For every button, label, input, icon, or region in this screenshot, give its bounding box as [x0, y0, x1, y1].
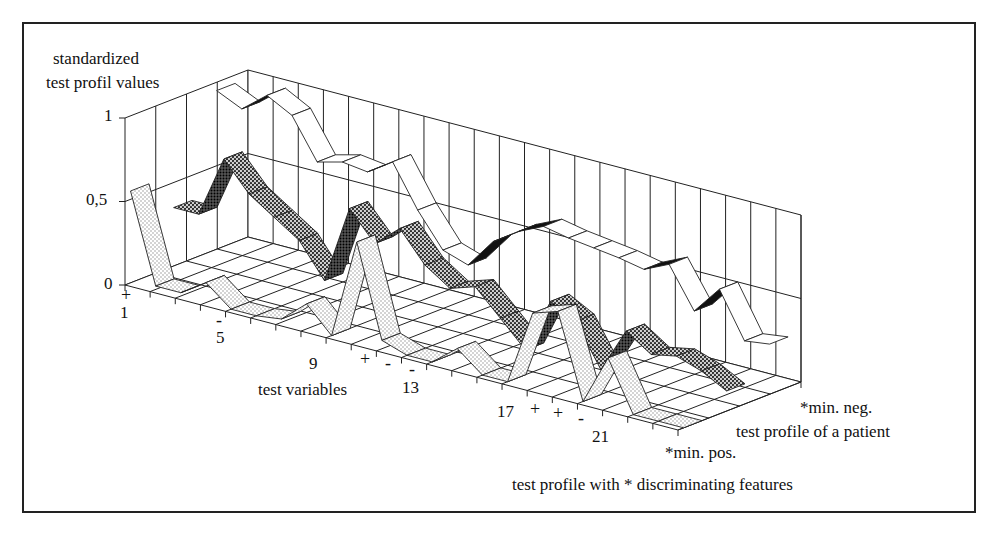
x-tick-1: 1 [120, 304, 129, 322]
y-tick-1: 1 [104, 107, 113, 125]
y-tick-0-5: 0,5 [86, 191, 107, 209]
marker-plus-10: + [360, 350, 370, 368]
x-tick-9: 9 [309, 355, 318, 373]
marker-plus-18: + [553, 404, 563, 422]
marker-minus-12: - [409, 360, 415, 378]
marker-minus-5: - [216, 311, 222, 329]
marker-plus-17: + [530, 400, 540, 418]
x-tick-21: 21 [592, 428, 609, 446]
series-label-min-neg: *min. neg. [800, 398, 872, 418]
y-tick-0: 0 [104, 275, 113, 293]
z-axis-title-line1: standardized [53, 49, 139, 69]
x-tick-17: 17 [497, 403, 514, 421]
marker-minus-11: - [385, 354, 391, 372]
marker-minus-19: - [578, 409, 584, 427]
x-tick-13: 13 [402, 379, 419, 397]
x-tick-5: 5 [216, 329, 225, 347]
z-axis-title-line2: test profil values [46, 73, 159, 93]
marker-plus-1: + [121, 286, 131, 304]
chart-caption: test profile with * discriminating featu… [512, 475, 793, 495]
series-label-patient: test profile of a patient [736, 422, 890, 442]
series-label-min-pos: *min. pos. [665, 443, 736, 463]
x-axis-title: test variables [258, 380, 347, 400]
